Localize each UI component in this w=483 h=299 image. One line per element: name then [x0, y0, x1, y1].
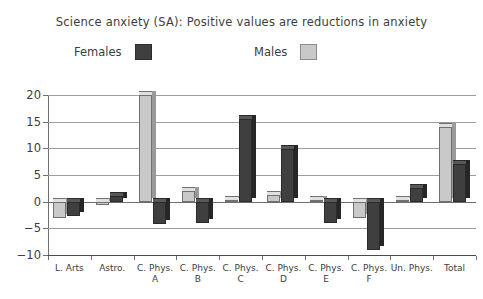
y-tick-label: 15: [26, 115, 41, 129]
plot-area: −10−505101520: [48, 95, 476, 255]
bar-face: [110, 196, 123, 201]
gridline-5: [48, 175, 476, 176]
bar-face: [225, 200, 238, 202]
x-tick-mark: [219, 256, 220, 260]
bar-males-c-phys-e: [310, 200, 323, 202]
bar-face: [310, 200, 323, 202]
bar-males-c-phys-c: [225, 200, 238, 202]
bar-face: [453, 164, 466, 201]
bar-side: [337, 198, 341, 219]
bar-females-total: [453, 164, 466, 201]
x-axis-label: C. Phys.E: [308, 263, 344, 285]
gridline-20: [48, 95, 476, 96]
bar-face: [139, 95, 152, 202]
bar-side: [380, 198, 384, 246]
x-axis-label: C. Phys.C: [223, 263, 259, 285]
bar-males-un-phys: [396, 200, 409, 202]
bar-face: [281, 149, 294, 201]
legend-entry-females: Females: [74, 44, 152, 60]
bar-face: [410, 188, 423, 202]
x-tick-mark: [433, 256, 434, 260]
x-axis-label: Total: [444, 263, 465, 274]
bar-face: [353, 202, 366, 218]
gridline--5: [48, 228, 476, 229]
science-anxiety-bar-chart: Science anxiety (SA): Positive values ar…: [0, 0, 483, 299]
x-axis-label: C. Phys.A: [137, 263, 173, 285]
bar-females-c-phys-c: [239, 119, 252, 202]
x-tick-mark: [262, 256, 263, 260]
x-tick-mark: [134, 256, 135, 260]
y-tick-label: 10: [26, 141, 41, 155]
legend-swatch-females: [135, 44, 152, 60]
legend-entry-males: Males: [254, 44, 317, 60]
bar-side: [152, 91, 156, 198]
bar-males-astro: [96, 202, 109, 205]
x-tick-mark: [476, 256, 477, 260]
bar-face: [196, 202, 209, 223]
gridline-15: [48, 122, 476, 123]
x-tick-mark: [390, 256, 391, 260]
x-axis: L. ArtsAstro.C. Phys.AC. Phys.BC. Phys.C…: [48, 256, 476, 298]
bar-face: [67, 202, 80, 216]
bar-side: [466, 160, 470, 197]
chart-legend: Females Males: [74, 44, 404, 64]
bar-females-astro: [110, 196, 123, 201]
bar-face: [396, 200, 409, 202]
x-axis-label: C. Phys.F: [351, 263, 387, 285]
bar-face: [153, 202, 166, 224]
bar-females-c-phys-a: [153, 202, 166, 224]
x-axis-label: Un. Phys.: [391, 263, 433, 274]
bar-side: [123, 192, 127, 197]
bar-males-c-phys-f: [353, 202, 366, 218]
bar-males-total: [439, 127, 452, 202]
y-tick-mark-0: [43, 202, 48, 203]
y-tick-label: −5: [24, 221, 41, 235]
bar-females-c-phys-f: [367, 202, 380, 250]
y-tick-mark-10: [43, 148, 48, 149]
legend-label-females: Females: [74, 45, 122, 59]
bar-females-un-phys: [410, 188, 423, 202]
bar-side: [252, 115, 256, 198]
x-tick-mark: [91, 256, 92, 260]
x-axis-label: L. Arts: [55, 263, 84, 274]
bar-males-c-phys-a: [139, 95, 152, 202]
y-tick-mark-15: [43, 122, 48, 123]
x-axis-label: Astro.: [99, 263, 125, 274]
y-tick-mark--5: [43, 228, 48, 229]
bar-face: [239, 119, 252, 202]
bar-side: [166, 198, 170, 220]
x-axis-label: C. Phys.B: [180, 263, 216, 285]
gridline-0: [48, 202, 476, 203]
bar-side: [209, 198, 213, 219]
bar-face: [96, 202, 109, 205]
bar-males-c-phys-d: [267, 195, 280, 201]
x-tick-mark: [348, 256, 349, 260]
bar-face: [53, 202, 66, 218]
x-tick-mark: [305, 256, 306, 260]
legend-swatch-males: [300, 44, 317, 60]
bar-females-c-phys-e: [324, 202, 337, 223]
gridline-10: [48, 148, 476, 149]
bar-face: [367, 202, 380, 250]
bar-side: [294, 145, 298, 197]
bar-side: [80, 198, 84, 212]
x-axis-label: C. Phys.D: [265, 263, 301, 285]
chart-title: Science anxiety (SA): Positive values ar…: [0, 15, 483, 29]
bar-females-c-phys-d: [281, 149, 294, 201]
y-tick-label: 0: [34, 195, 41, 209]
x-tick-mark: [176, 256, 177, 260]
y-tick-label: −10: [17, 248, 41, 262]
bar-face: [439, 127, 452, 202]
y-tick-label: 20: [26, 88, 41, 102]
bar-females-c-phys-b: [196, 202, 209, 223]
bar-face: [324, 202, 337, 223]
y-tick-label: 5: [34, 168, 41, 182]
bar-females-l-arts: [67, 202, 80, 216]
bar-males-c-phys-b: [182, 191, 195, 202]
legend-label-males: Males: [254, 45, 287, 59]
y-tick-mark-5: [43, 175, 48, 176]
bar-side: [423, 184, 427, 198]
y-tick-mark-20: [43, 95, 48, 96]
bar-face: [182, 191, 195, 202]
bar-side: [195, 187, 199, 198]
